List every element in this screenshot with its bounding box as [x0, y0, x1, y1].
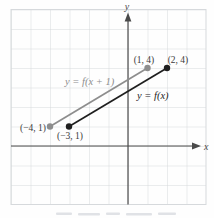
point-label-minus4-1: (−4, 1) [20, 123, 46, 134]
fx-equation-label: y = f(x) [136, 90, 169, 102]
point-label-2-4: (2, 4) [168, 55, 189, 66]
point-dot-1-4 [144, 65, 150, 71]
x-axis-label: x [203, 141, 209, 152]
point-label-1-4: (1, 4) [134, 55, 155, 66]
fx-plus-1-equation-label: y = f(x + 1) [64, 76, 115, 88]
graph-canvas: x y (−4, 1) (−3, 1) (1, 4) (2, 4) y = f(… [0, 0, 214, 218]
point-label-minus3-1: (−3, 1) [57, 131, 83, 142]
cut-off-caption-fragment [56, 213, 176, 216]
y-axis-label: y [124, 1, 130, 12]
point-dot-minus3-1 [66, 123, 72, 129]
function-shift-graph-figure: x y (−4, 1) (−3, 1) (1, 4) (2, 4) y = f(… [0, 0, 214, 218]
point-dot-2-4 [164, 65, 170, 71]
grid-background [11, 10, 206, 205]
point-dot-minus4-1 [47, 123, 53, 129]
